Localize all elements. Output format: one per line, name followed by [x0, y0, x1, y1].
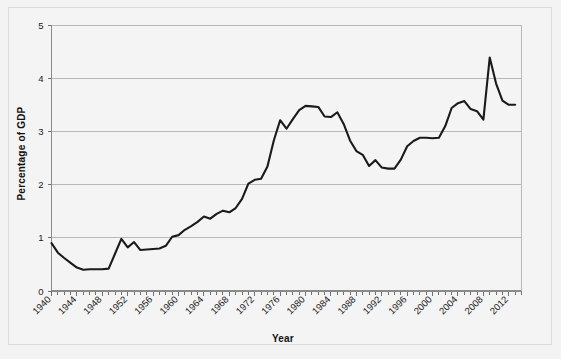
svg-text:1960: 1960 [157, 294, 180, 317]
svg-text:2000: 2000 [411, 294, 434, 317]
svg-text:2004: 2004 [437, 294, 460, 317]
svg-text:1984: 1984 [310, 294, 333, 317]
svg-text:1948: 1948 [81, 294, 104, 317]
svg-text:2012: 2012 [487, 294, 510, 317]
line-chart-plot: 012345 194019441948195219561960196419681… [0, 0, 561, 359]
y-axis-ticks: 012345 [38, 20, 51, 297]
x-axis-ticks: 1940194419481952195619601964196819721976… [30, 291, 521, 316]
svg-text:1976: 1976 [259, 294, 282, 317]
svg-text:1992: 1992 [360, 294, 383, 317]
svg-text:3: 3 [38, 126, 43, 137]
plot-background [52, 25, 522, 291]
svg-text:1952: 1952 [106, 294, 129, 317]
svg-text:2008: 2008 [462, 294, 485, 317]
svg-text:1944: 1944 [56, 294, 79, 317]
svg-text:1956: 1956 [132, 294, 155, 317]
svg-text:1: 1 [38, 232, 43, 243]
svg-text:1980: 1980 [284, 294, 307, 317]
svg-text:1968: 1968 [208, 294, 231, 317]
svg-text:4: 4 [38, 73, 43, 84]
chart-figure: Percentage of GDP Year 012345 1940194419… [0, 0, 561, 359]
svg-text:2: 2 [38, 179, 43, 190]
svg-text:5: 5 [38, 20, 43, 31]
svg-text:1996: 1996 [386, 294, 409, 317]
svg-text:1988: 1988 [335, 294, 358, 317]
svg-text:1972: 1972 [233, 294, 256, 317]
svg-text:1964: 1964 [183, 294, 206, 317]
svg-text:1940: 1940 [30, 294, 53, 317]
